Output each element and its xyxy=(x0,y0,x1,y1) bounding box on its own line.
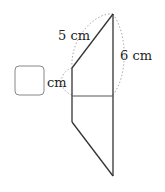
answer-box[interactable] xyxy=(15,66,44,95)
geometry-diagram: 5 cm 6 cm cm xyxy=(0,0,165,192)
label-unknown-unit: cm xyxy=(47,75,67,90)
dotted-braces xyxy=(62,14,125,95)
label-hypotenuse: 5 cm xyxy=(58,28,90,43)
label-right-side: 6 cm xyxy=(120,48,152,63)
segment-bottom-slant xyxy=(72,122,113,176)
